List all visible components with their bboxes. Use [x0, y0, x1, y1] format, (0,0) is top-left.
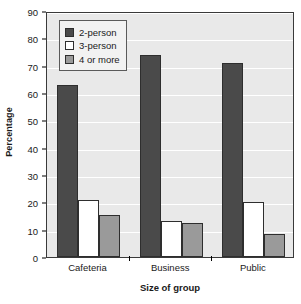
y-axis-tick-label: 20 — [27, 198, 38, 209]
y-axis-tick-labels: 0102030405060708090 — [18, 12, 42, 258]
bar — [264, 234, 285, 257]
y-axis-tick-label: 10 — [27, 225, 38, 236]
legend-label: 2-person — [79, 27, 117, 38]
y-axis-tick-label: 60 — [27, 89, 38, 100]
bar — [182, 223, 203, 257]
legend-label: 4 or more — [79, 54, 120, 65]
x-axis-tick-mark — [211, 256, 212, 261]
bar — [78, 200, 99, 257]
legend-swatch — [65, 41, 74, 50]
bar — [57, 85, 78, 257]
y-axis-tick-label: 40 — [27, 143, 38, 154]
y-axis-tick-label: 80 — [27, 34, 38, 45]
bar — [99, 215, 120, 257]
legend-item: 4 or more — [65, 53, 120, 66]
y-axis-tick-label: 0 — [33, 253, 38, 264]
legend-swatch — [65, 55, 74, 64]
x-axis-tick-label: Public — [240, 262, 266, 273]
bar — [161, 221, 182, 257]
y-axis-tick-label: 70 — [27, 61, 38, 72]
x-axis-tick-labels: CafeteriaBusinessPublic — [46, 262, 294, 278]
plot-area: 2-person3-person4 or more — [46, 12, 294, 258]
bar-group — [212, 13, 294, 257]
y-axis-title-label: Percentage — [4, 107, 14, 157]
legend-item: 3-person — [65, 39, 120, 52]
legend: 2-person3-person4 or more — [59, 20, 127, 71]
x-axis-tick-label: Business — [151, 262, 190, 273]
x-axis-title: Size of group — [46, 282, 294, 293]
x-axis-tick-mark — [129, 256, 130, 261]
legend-swatch — [65, 28, 74, 37]
y-axis-tick-label: 50 — [27, 116, 38, 127]
legend-label: 3-person — [79, 40, 117, 51]
y-axis-title: Percentage — [0, 0, 18, 264]
bar-group — [130, 13, 213, 257]
y-axis-tick-label: 30 — [27, 171, 38, 182]
bar — [222, 63, 243, 257]
bar — [140, 55, 161, 257]
legend-item: 2-person — [65, 26, 120, 39]
y-axis-tick-label: 90 — [27, 7, 38, 18]
bar — [243, 202, 264, 257]
bar-chart: Percentage 0102030405060708090 2-person3… — [0, 0, 301, 304]
x-axis-tick-label: Cafeteria — [68, 262, 107, 273]
